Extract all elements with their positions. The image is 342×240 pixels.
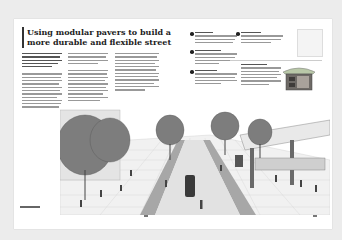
callout-3: [illegible callout 3]	[195, 70, 237, 86]
inset-map	[297, 29, 323, 57]
callout-2: [illegible callout 2]	[195, 50, 237, 66]
body-column-2: [illegible body text — column 2]	[115, 53, 159, 93]
intro-text: [illegible body text — intro paragraph]	[22, 53, 62, 110]
kiosk-illustration	[282, 64, 316, 92]
street-illustration	[60, 100, 330, 215]
divider	[230, 60, 322, 61]
caption: [illegible caption]	[20, 206, 40, 208]
page-title: Using modular pavers to build a more dur…	[27, 27, 187, 47]
bullet-icon	[190, 32, 194, 36]
bullet-icon	[190, 70, 194, 74]
callout-1: [illegible callout 1]	[195, 32, 237, 45]
page-number-right	[313, 215, 317, 217]
body-column-1: [illegible body text — column 1]	[68, 53, 108, 103]
title-accent-rule	[22, 27, 24, 48]
bullet-icon	[190, 50, 194, 54]
page-number-left	[144, 215, 148, 217]
bullet-icon	[236, 32, 240, 36]
sidebar-note: [illegible sidebar text]	[241, 64, 281, 87]
callout-4: [illegible callout 4]	[241, 32, 283, 45]
